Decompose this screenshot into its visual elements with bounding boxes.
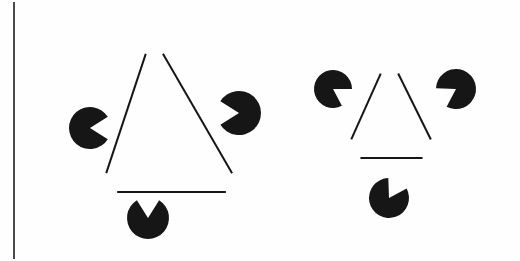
illustration-canvas bbox=[0, 0, 520, 261]
figure-page: Kanizsa Triangle Illusion Figures bbox=[0, 0, 520, 261]
